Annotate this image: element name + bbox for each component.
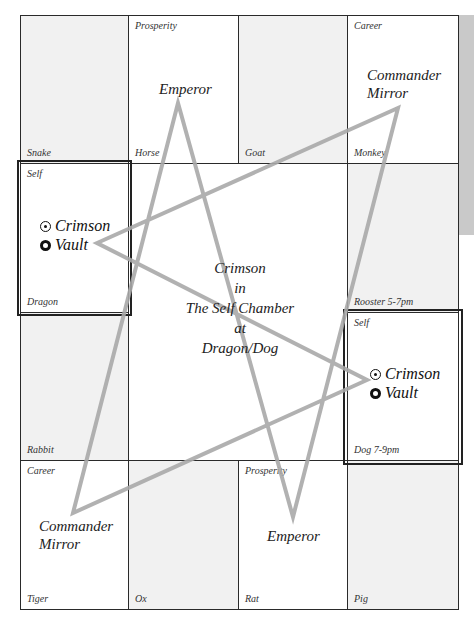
star-line: Mirror: [39, 535, 113, 553]
star-line: Commander: [367, 66, 441, 84]
branch-label: Monkey: [354, 147, 386, 158]
branch-label: Tiger: [27, 593, 48, 604]
cell-rooster: Rooster 5-7pm: [347, 163, 459, 313]
sun-circle-icon: [370, 369, 381, 380]
palace-label: Prosperity: [135, 20, 177, 31]
star-line: Commander: [39, 517, 113, 535]
side-strip: [459, 15, 474, 235]
self-star-primary-dragon: Crimson: [40, 216, 110, 236]
star-label: Crimson: [385, 364, 440, 384]
branch-label: Rooster 5-7pm: [354, 296, 413, 307]
caption-line: Crimson: [150, 258, 330, 278]
palace-label: Career: [354, 20, 382, 31]
self-star-secondary-dragon: Vault: [40, 235, 88, 255]
center-caption: Crimson in The Self Chamber at Dragon/Do…: [150, 258, 330, 358]
branch-label: Rat: [245, 593, 259, 604]
star-commander-top: Commander Mirror: [367, 66, 441, 102]
ring-icon: [370, 388, 381, 399]
caption-line: at: [150, 318, 330, 338]
star-line: Mirror: [367, 84, 441, 102]
star-label: Vault: [385, 383, 418, 403]
cell-rabbit: Rabbit: [20, 312, 129, 461]
sun-circle-icon: [40, 221, 51, 232]
branch-label: Pig: [354, 593, 368, 604]
palace-label: Career: [27, 465, 55, 476]
palace-label: Prosperity: [245, 465, 287, 476]
caption-line: The Self Chamber: [150, 298, 330, 318]
caption-line: in: [150, 278, 330, 298]
self-star-secondary-dog: Vault: [370, 383, 418, 403]
branch-label: Goat: [245, 147, 265, 158]
star-commander-bottom: Commander Mirror: [39, 517, 113, 553]
cell-goat: Goat: [238, 15, 348, 164]
cell-ox: Ox: [128, 460, 239, 610]
star-emperor-top: Emperor: [159, 80, 212, 98]
branch-label: Horse: [135, 147, 159, 158]
star-emperor-bottom: Emperor: [267, 527, 320, 545]
cell-snake: Snake: [20, 15, 129, 164]
branch-label: Snake: [27, 147, 51, 158]
star-label: Vault: [55, 235, 88, 255]
ring-icon: [40, 240, 51, 251]
branch-label: Rabbit: [27, 444, 54, 455]
caption-line: Dragon/Dog: [150, 338, 330, 358]
cell-pig: Pig: [347, 460, 459, 610]
branch-label: Ox: [135, 593, 147, 604]
self-star-primary-dog: Crimson: [370, 364, 440, 384]
star-label: Crimson: [55, 216, 110, 236]
